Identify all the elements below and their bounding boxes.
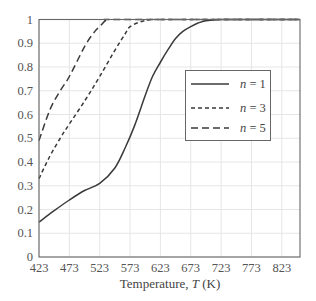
chart: 00.10.20.30.40.50.60.70.80.91 4234735235…	[0, 0, 316, 301]
x-tick-label: 573	[121, 261, 140, 275]
x-tick-label: 523	[90, 261, 109, 275]
y-tick-label: 0.5	[17, 131, 33, 145]
x-tick-label: 723	[212, 261, 231, 275]
y-tick-label: 0.2	[17, 203, 33, 217]
legend-label-n1: n = 1	[240, 77, 266, 91]
y-tick-label: 0.4	[17, 155, 33, 169]
x-tick-label: 773	[242, 261, 261, 275]
y-tick-label: 0.6	[17, 108, 33, 122]
y-tick-label: 0.8	[17, 60, 33, 74]
y-tick-label: 1	[27, 13, 33, 27]
legend-label-n3: n = 3	[240, 101, 266, 115]
x-axis-ticks: 423473523573623673723773823	[30, 261, 292, 275]
x-tick-label: 673	[181, 261, 200, 275]
legend: n = 1n = 3n = 5	[186, 71, 271, 141]
y-tick-label: 0.1	[17, 226, 33, 240]
x-tick-label: 473	[60, 261, 79, 275]
y-axis-ticks: 00.10.20.30.40.50.60.70.80.91	[17, 13, 33, 265]
y-tick-label: 0.3	[17, 179, 33, 193]
x-tick-label: 623	[151, 261, 170, 275]
x-axis-title: Temperature, T (K)	[120, 276, 221, 291]
x-tick-label: 423	[30, 261, 49, 275]
y-tick-label: 0.9	[17, 36, 33, 50]
x-tick-label: 823	[272, 261, 291, 275]
y-tick-label: 0.7	[17, 84, 33, 98]
legend-label-n5: n = 5	[240, 121, 266, 135]
